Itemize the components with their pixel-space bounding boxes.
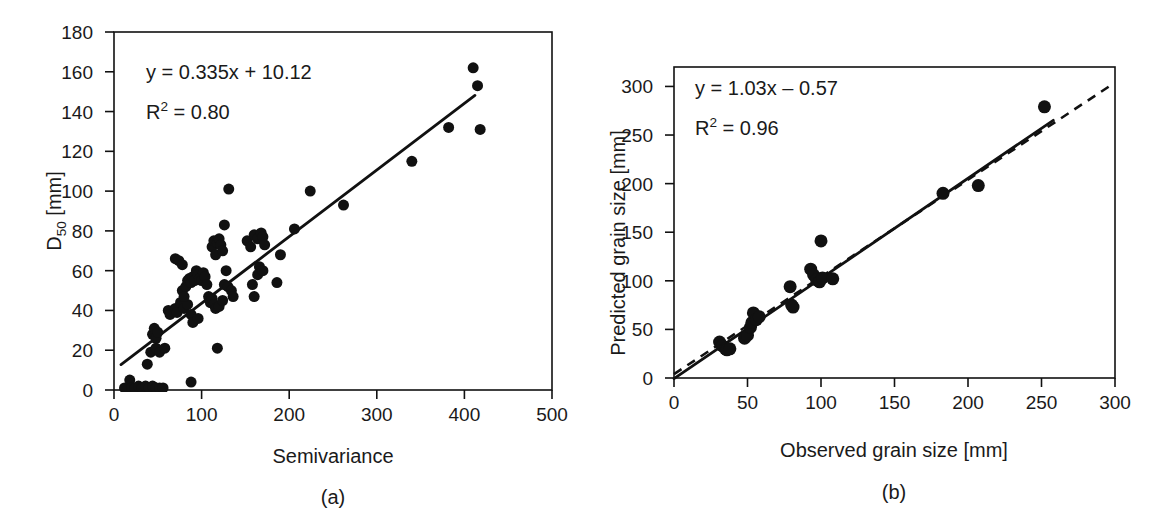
panel-b-data-point	[826, 272, 839, 285]
panel-a-data-point	[305, 186, 316, 197]
panel-b-y-tick-label: 150	[580, 223, 653, 242]
panel-b-regression-equation: y = 1.03x – 0.57	[695, 78, 838, 98]
panel-a-data-point	[289, 223, 300, 234]
panel-a-r-squared: R2 = 0.80	[146, 100, 230, 122]
panel-a-data-point	[221, 265, 232, 276]
panel-a-data-point	[475, 124, 486, 135]
panel-b-x-tick-label: 250	[1026, 393, 1058, 412]
panel-a-data-point	[338, 200, 349, 211]
panel-a-y-tick-label: 20	[0, 341, 93, 360]
panel-b-y-tick-label: 200	[580, 174, 653, 193]
panel-b-r-squared-value: = 0.96	[717, 117, 779, 139]
panel-a-data-point	[406, 156, 417, 167]
panel-b-x-axis-title: Observed grain size [mm]	[780, 440, 1008, 460]
panel-a-y-tick-label: 0	[0, 381, 93, 400]
panel-b-data-point	[784, 280, 797, 293]
figure-container: D50 [mm] Semivariance y = 0.335x + 10.12…	[0, 0, 1160, 520]
panel-a-y-tick-label: 120	[0, 142, 93, 161]
panel-a-y-tick-label: 80	[0, 221, 93, 240]
panel-a-y-tick-label: 60	[0, 261, 93, 280]
panel-b-x-tick-label: 200	[952, 393, 984, 412]
panel-b-r-squared: R2 = 0.96	[695, 116, 779, 138]
panel-a-data-point	[275, 249, 286, 260]
panel-a-x-tick-label: 0	[109, 405, 120, 424]
panel-b-y-tick-label: 50	[580, 320, 653, 339]
panel-a-data-point	[201, 279, 212, 290]
panel-b-y-tick-label: 250	[580, 126, 653, 145]
panel-b-data-point	[1038, 100, 1051, 113]
panel-a-y-tick-label: 100	[0, 182, 93, 201]
panel-a-x-tick-label: 300	[361, 405, 393, 424]
panel-b-x-tick-label: 150	[879, 393, 911, 412]
panel-a-data-point	[223, 184, 234, 195]
panel-a-data-point	[247, 279, 258, 290]
panel-a-data-point	[177, 259, 188, 270]
panel-a-x-tick-label: 200	[273, 405, 305, 424]
panel-a-plot-frame	[114, 32, 552, 390]
panel-b-y-tick-label: 100	[580, 271, 653, 290]
panel-a-data-point	[443, 122, 454, 133]
panel-b-data-point	[787, 301, 800, 314]
panel-a-data-point	[186, 377, 197, 388]
panel-a-data-point	[217, 295, 228, 306]
panel-b-regression-line	[674, 120, 1053, 378]
panel-a-data-point	[219, 219, 230, 230]
panel-a-x-tick-label: 400	[449, 405, 481, 424]
panel-a-data-point	[249, 291, 260, 302]
panel-a-data-point	[259, 239, 270, 250]
panel-b: Predicted grain size [mm] Observed grain…	[580, 0, 1160, 520]
panel-b-data-point	[723, 342, 736, 355]
panel-b-y-tick-label: 300	[580, 77, 653, 96]
panel-a-caption: (a)	[321, 487, 345, 507]
panel-a-data-point	[257, 265, 268, 276]
panel-b-r-squared-exponent: 2	[709, 115, 717, 130]
panel-a-y-tick-label: 40	[0, 301, 93, 320]
panel-a-y-tick-label: 160	[0, 62, 93, 81]
panel-a-data-point	[468, 62, 479, 73]
panel-b-data-point	[815, 234, 828, 247]
panel-a: D50 [mm] Semivariance y = 0.335x + 10.12…	[0, 0, 580, 520]
panel-a-y-tick-label: 180	[0, 23, 93, 42]
panel-b-x-tick-label: 300	[1099, 393, 1131, 412]
panel-a-x-axis-title: Semivariance	[272, 446, 393, 466]
panel-a-data-point	[217, 245, 228, 256]
panel-a-data-point	[271, 277, 282, 288]
panel-a-data-point	[212, 343, 223, 354]
panel-a-r-squared-value: = 0.80	[168, 101, 230, 123]
panel-a-data-point	[228, 291, 239, 302]
panel-b-data-point	[972, 179, 985, 192]
panel-a-r-squared-prefix: R	[146, 101, 160, 123]
panel-a-x-tick-label: 500	[536, 405, 568, 424]
panel-b-x-tick-label: 100	[805, 393, 837, 412]
panel-b-x-tick-label: 0	[669, 393, 680, 412]
panel-b-data-point	[753, 310, 766, 323]
panel-a-r-squared-exponent: 2	[160, 99, 168, 114]
panel-b-x-tick-label: 50	[737, 393, 758, 412]
panel-a-data-point	[159, 343, 170, 354]
panel-a-regression-equation: y = 0.335x + 10.12	[146, 62, 312, 82]
panel-a-data-point	[193, 313, 204, 324]
panel-a-data-point	[152, 327, 163, 338]
panel-a-x-tick-label: 100	[186, 405, 218, 424]
panel-b-data-point	[937, 187, 950, 200]
panel-b-y-tick-label: 0	[580, 369, 653, 388]
panel-a-data-point	[158, 383, 169, 394]
panel-b-r-squared-prefix: R	[695, 117, 709, 139]
panel-b-plot-frame	[674, 67, 1115, 378]
panel-a-y-tick-label: 140	[0, 102, 93, 121]
panel-a-data-point	[142, 359, 153, 370]
panel-b-caption: (b)	[882, 482, 906, 502]
panel-a-data-point	[472, 80, 483, 91]
panel-a-data-point	[179, 291, 190, 302]
